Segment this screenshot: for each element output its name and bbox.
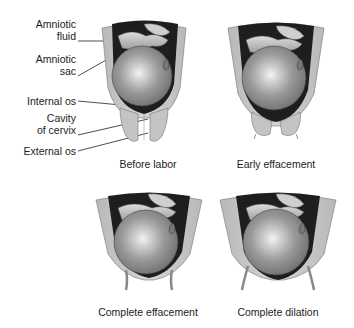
label-line: Amniotic bbox=[20, 53, 76, 65]
figure-complete-effacement bbox=[96, 192, 202, 292]
figure-early-effacement bbox=[226, 22, 326, 140]
label-line: Internal os bbox=[10, 95, 76, 107]
label-internal-os: Internal os bbox=[10, 95, 76, 107]
label-line: sac bbox=[20, 65, 76, 77]
label-external-os: External os bbox=[5, 145, 76, 157]
caption-early-effacement: Early effacement bbox=[228, 158, 324, 170]
label-line: of cervix bbox=[10, 124, 76, 136]
label-amniotic-sac: Amniotic sac bbox=[20, 53, 76, 77]
label-amniotic-fluid: Amniotic fluid bbox=[20, 18, 76, 42]
figure-before-labor bbox=[98, 18, 190, 143]
label-cavity-of-cervix: Cavity of cervix bbox=[10, 112, 76, 136]
caption-complete-dilation: Complete dilation bbox=[226, 306, 330, 318]
figure-complete-dilation bbox=[220, 192, 336, 292]
label-line: Cavity bbox=[10, 112, 76, 124]
caption-before-labor: Before labor bbox=[110, 158, 186, 170]
caption-complete-effacement: Complete effacement bbox=[88, 306, 208, 318]
label-line: fluid bbox=[20, 30, 76, 42]
label-line: External os bbox=[5, 145, 76, 157]
label-line: Amniotic bbox=[20, 18, 76, 30]
